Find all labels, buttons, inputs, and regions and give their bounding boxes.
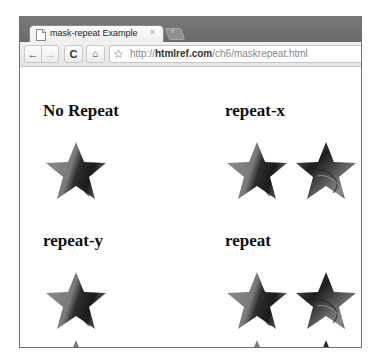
star-mask-image <box>45 339 107 348</box>
tab-mask-repeat-example[interactable]: mask-repeat Example × <box>29 25 164 43</box>
document-icon <box>36 29 46 41</box>
section-heading: repeat-x <box>225 101 285 121</box>
url-path: /ch6/maskrepeat.html <box>212 48 308 59</box>
section-heading: repeat <box>225 231 271 251</box>
star-mask-image <box>226 141 288 201</box>
tab-title: mask-repeat Example <box>50 28 138 38</box>
star-mask-image <box>226 339 288 348</box>
reload-button[interactable]: C <box>64 45 83 63</box>
home-icon: ⌂ <box>92 48 98 59</box>
section-heading: No Repeat <box>43 101 119 121</box>
address-bar[interactable]: ☆ http://htmlref.com/ch6/maskrepeat.html <box>109 45 361 63</box>
star-mask-image <box>45 271 107 331</box>
home-button[interactable]: ⌂ <box>86 45 105 63</box>
browser-window: mask-repeat Example × + ← → C ⌂ ☆ http:/… <box>19 16 362 348</box>
tab-strip: mask-repeat Example × + <box>20 16 361 42</box>
plus-icon: + <box>170 26 175 36</box>
arrow-left-icon: ← <box>28 48 39 60</box>
masked-image-no-repeat <box>43 141 133 201</box>
close-icon[interactable]: × <box>150 27 155 37</box>
url-prefix: http:// <box>130 48 155 59</box>
section-heading: repeat-y <box>43 231 103 251</box>
url-host: htmlref.com <box>155 48 212 59</box>
page-content: No Repeat repeat-x repeat-y repeat <box>20 67 361 347</box>
masked-image-repeat-x <box>225 141 362 201</box>
arrow-right-icon: → <box>45 48 56 60</box>
masked-image-repeat-y <box>43 271 133 348</box>
forward-button[interactable]: → <box>41 45 59 63</box>
masked-image-repeat <box>225 271 362 348</box>
new-tab-button[interactable]: + <box>165 28 185 40</box>
star-mask-image <box>45 141 107 201</box>
star-mask-image <box>295 141 357 201</box>
star-mask-image <box>226 271 288 331</box>
back-button[interactable]: ← <box>24 45 42 63</box>
toolbar: ← → C ⌂ ☆ http://htmlref.com/ch6/maskrep… <box>20 42 361 67</box>
url-text[interactable]: http://htmlref.com/ch6/maskrepeat.html <box>130 48 308 59</box>
star-mask-image <box>295 339 357 348</box>
star-mask-image <box>295 271 357 331</box>
reload-icon: C <box>70 48 78 60</box>
bookmark-star-icon[interactable]: ☆ <box>113 46 124 62</box>
